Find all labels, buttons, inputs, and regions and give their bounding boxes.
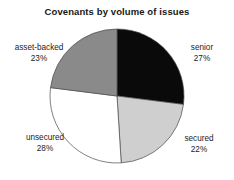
pie-label-secured-value: 22% — [172, 145, 226, 156]
pie-label-asset-backed: asset-backed 23% — [6, 43, 72, 64]
pie-label-senior-value: 27% — [176, 54, 228, 65]
pie-label-unsecured-value: 28% — [16, 144, 74, 155]
pie-label-unsecured: unsecured 28% — [16, 133, 74, 154]
pie-label-secured-name: secured — [172, 134, 226, 145]
pie-label-asset-backed-value: 23% — [6, 54, 72, 65]
pie-label-secured: secured 22% — [172, 134, 226, 155]
pie-label-senior-name: senior — [176, 43, 228, 54]
pie-label-senior: senior 27% — [176, 43, 228, 64]
pie-chart-figure: Covenants by volume of issues asset-back… — [0, 0, 234, 180]
pie-label-asset-backed-name: asset-backed — [6, 43, 72, 54]
pie-label-unsecured-name: unsecured — [16, 133, 74, 144]
pie-slice-senior[interactable] — [117, 29, 184, 104]
